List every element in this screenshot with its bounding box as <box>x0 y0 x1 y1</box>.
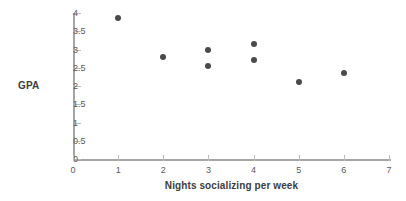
x-axis-title: Nights socializing per week <box>73 180 390 191</box>
data-point <box>251 57 257 63</box>
data-point <box>251 41 257 47</box>
x-tick-label: 5 <box>296 165 301 175</box>
data-point <box>160 54 166 60</box>
x-tick-mark <box>208 155 209 161</box>
x-tick-label: 3 <box>206 165 211 175</box>
data-point <box>115 15 121 21</box>
plot-area: 00.511.522.533.54 01234567 <box>73 13 390 160</box>
data-point <box>296 79 302 85</box>
data-point <box>205 63 211 69</box>
scatter-chart: GPA 00.511.522.533.54 01234567 Nights so… <box>0 0 406 201</box>
x-tick-label: 7 <box>386 165 391 175</box>
x-tick-mark <box>73 155 74 161</box>
x-tick-label: 2 <box>161 165 166 175</box>
data-point <box>341 70 347 76</box>
x-tick-label: 1 <box>116 165 121 175</box>
x-tick-mark <box>344 155 345 161</box>
data-point <box>205 47 211 53</box>
x-tick-mark <box>163 155 164 161</box>
x-tick-mark <box>299 155 300 161</box>
x-tick-label: 6 <box>341 165 346 175</box>
x-tick-mark <box>389 155 390 161</box>
y-axis-title: GPA <box>18 80 62 92</box>
x-tick-label: 4 <box>251 165 256 175</box>
x-tick-label: 0 <box>70 165 75 175</box>
x-tick-mark <box>254 155 255 161</box>
x-tick-mark <box>118 155 119 161</box>
